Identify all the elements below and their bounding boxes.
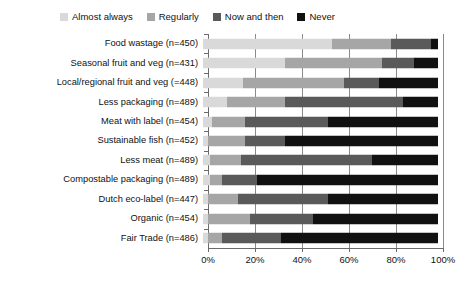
bar-track [203, 151, 438, 170]
bar-segment[interactable] [243, 77, 344, 88]
bar-segment[interactable] [222, 174, 257, 185]
bar-segment[interactable] [241, 155, 373, 166]
legend-item[interactable]: Almost always [60, 12, 133, 22]
bar-segment[interactable] [403, 97, 438, 108]
bar-segment[interactable] [281, 233, 438, 244]
bar-segment[interactable] [285, 97, 403, 108]
bar-segment[interactable] [203, 58, 285, 69]
y-axis-tick [204, 53, 208, 54]
bar-segment[interactable] [344, 77, 379, 88]
bar-segment[interactable] [203, 116, 212, 127]
bar-segment[interactable] [257, 174, 438, 185]
bar-track [203, 112, 438, 131]
bar-segment[interactable] [203, 155, 210, 166]
legend-item-label: Almost always [72, 12, 133, 22]
bar-segment[interactable] [245, 116, 327, 127]
bar-track [203, 190, 438, 209]
bar-segment[interactable] [328, 116, 438, 127]
legend-item[interactable]: Now and then [213, 12, 284, 22]
legend-item-label: Never [309, 12, 334, 22]
stacked-bar[interactable] [203, 97, 438, 108]
chart-row: Sustainable fish (n=452) [0, 131, 468, 150]
chart-row: Dutch eco-label (n=447) [0, 190, 468, 209]
bar-segment[interactable] [379, 77, 438, 88]
stacked-bar[interactable] [203, 77, 438, 88]
bar-segment[interactable] [227, 97, 286, 108]
bar-segment[interactable] [382, 58, 415, 69]
bar-segment[interactable] [208, 194, 239, 205]
legend-item[interactable]: Never [297, 12, 334, 22]
bar-track [203, 92, 438, 111]
bar-segment[interactable] [372, 155, 438, 166]
legend-item[interactable]: Regularly [147, 12, 199, 22]
chart-row: Compostable packaging (n=489) [0, 170, 468, 189]
x-axis-tick-label: 0% [201, 254, 215, 266]
y-axis-tick [204, 170, 208, 171]
bar-segment[interactable] [222, 233, 281, 244]
bar-track [203, 170, 438, 189]
bar-segment[interactable] [245, 135, 285, 146]
stacked-bar[interactable] [203, 155, 438, 166]
x-axis-tick-labels: 0%20%40%60%80%100% [0, 254, 468, 268]
bar-segment[interactable] [238, 194, 327, 205]
category-label: Fair Trade (n=486) [0, 233, 203, 244]
bar-track [203, 73, 438, 92]
y-axis-tick [204, 92, 208, 93]
x-axis-tick-label: 60% [339, 254, 358, 266]
y-axis-tick [204, 112, 208, 113]
bar-segment[interactable] [414, 58, 438, 69]
y-axis-tick [204, 209, 208, 210]
bar-segment[interactable] [208, 233, 222, 244]
chart-row: Seasonal fruit and veg (n=431) [0, 53, 468, 72]
bar-segment[interactable] [203, 38, 332, 49]
chart-row: Fair Trade (n=486) [0, 229, 468, 248]
bar-segment[interactable] [203, 174, 210, 185]
bar-segment[interactable] [250, 213, 313, 224]
legend-swatch-icon [297, 13, 305, 21]
bar-segment[interactable] [203, 97, 227, 108]
y-axis-tick [204, 73, 208, 74]
bar-segment[interactable] [208, 135, 246, 146]
stacked-bar[interactable] [203, 135, 438, 146]
stacked-bar[interactable] [203, 116, 438, 127]
x-axis-tick-label: 40% [292, 254, 311, 266]
bar-rows: Food wastage (n=450)Seasonal fruit and v… [0, 34, 468, 248]
y-axis-tick [204, 151, 208, 152]
stacked-bar[interactable] [203, 213, 438, 224]
chart-legend: Almost alwaysRegularlyNow and thenNever [60, 8, 460, 26]
stacked-bar[interactable] [203, 38, 438, 49]
x-axis-tick [255, 248, 256, 252]
x-axis-tick [443, 248, 444, 252]
bar-segment[interactable] [212, 116, 245, 127]
legend-item-label: Now and then [225, 12, 284, 22]
category-label: Compostable packaging (n=489) [0, 174, 203, 185]
category-label: Dutch eco-label (n=447) [0, 194, 203, 205]
bar-segment[interactable] [391, 38, 431, 49]
bar-segment[interactable] [332, 38, 391, 49]
bar-segment[interactable] [285, 135, 438, 146]
bar-segment[interactable] [208, 213, 250, 224]
bar-track [203, 53, 438, 72]
y-axis-tick [204, 131, 208, 132]
stacked-bar[interactable] [203, 194, 438, 205]
stacked-bar[interactable] [203, 58, 438, 69]
category-label: Food wastage (n=450) [0, 38, 203, 49]
stacked-bar-chart: Almost alwaysRegularlyNow and thenNever … [0, 0, 468, 282]
stacked-bar[interactable] [203, 174, 438, 185]
category-label: Seasonal fruit and veg (n=431) [0, 58, 203, 69]
bar-track [203, 209, 438, 228]
legend-swatch-icon [213, 13, 221, 21]
bar-segment[interactable] [431, 38, 438, 49]
x-axis-tick-label: 20% [245, 254, 264, 266]
bar-segment[interactable] [285, 58, 381, 69]
bar-segment[interactable] [203, 77, 243, 88]
bar-segment[interactable] [210, 155, 241, 166]
x-axis-tick [396, 248, 397, 252]
x-axis-tick-label: 80% [386, 254, 405, 266]
stacked-bar[interactable] [203, 233, 438, 244]
bar-segment[interactable] [328, 194, 438, 205]
bar-track [203, 34, 438, 53]
bar-segment[interactable] [313, 213, 438, 224]
bar-track [203, 131, 438, 150]
bar-segment[interactable] [210, 174, 222, 185]
